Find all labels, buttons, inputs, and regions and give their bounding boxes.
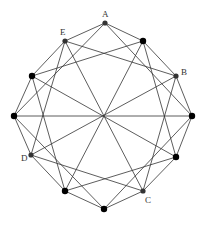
edge (14, 116, 31, 155)
vertex-v4 (173, 154, 179, 160)
edge (176, 116, 192, 157)
vertex-v3 (189, 113, 195, 119)
vertex-v9 (11, 113, 17, 119)
edge (14, 76, 32, 116)
vertex-label-E: E (60, 27, 66, 37)
vertex-E (62, 38, 67, 43)
vertex-D (28, 152, 33, 157)
edge (105, 23, 143, 41)
vertex-v7 (62, 188, 68, 194)
edge (65, 23, 105, 41)
edges-group (14, 23, 192, 209)
graph-diagram: ABCDE (0, 0, 203, 226)
vertex-v10 (29, 73, 35, 79)
edge (104, 191, 143, 209)
vertex-label-B: B (181, 67, 187, 77)
vertex-C (140, 188, 145, 193)
edge (105, 23, 192, 116)
vertex-label-A: A (102, 9, 109, 19)
edge (31, 41, 65, 155)
edge (65, 191, 104, 209)
vertex-v6 (101, 206, 107, 212)
vertex-A (102, 20, 107, 25)
vertex-v1 (140, 38, 146, 44)
vertex-label-D: D (21, 153, 28, 163)
vertex-B (173, 73, 178, 78)
edge (176, 76, 192, 116)
vertex-label-C: C (145, 195, 151, 205)
edge (14, 116, 104, 209)
